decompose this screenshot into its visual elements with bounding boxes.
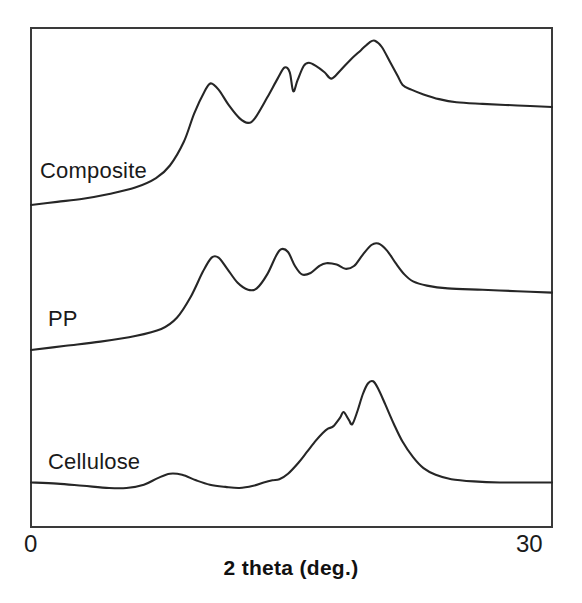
- series-label-pp: PP: [48, 306, 78, 332]
- series-label-cellulose: Cellulose: [48, 449, 140, 475]
- figure-background: [0, 0, 582, 603]
- series-label-composite: Composite: [40, 158, 147, 184]
- xrd-plot: [0, 0, 582, 603]
- xrd-figure: Composite PP Cellulose 0 30 2 theta (deg…: [0, 0, 582, 603]
- x-axis-tick-min: 0: [24, 530, 37, 558]
- x-axis-tick-max: 30: [516, 530, 543, 558]
- x-axis-title: 2 theta (deg.): [0, 556, 582, 580]
